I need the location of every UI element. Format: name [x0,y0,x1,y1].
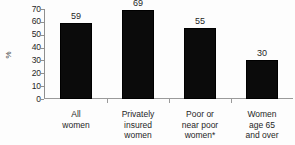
x-axis-category-label: Women age 65 and over [231,109,293,141]
y-axis-tick-label: 50 [17,30,41,39]
x-axis-category-label: All women [45,109,107,130]
bar [122,10,154,99]
bar-chart-figure: % 706050403020100 59All women69Privately… [0,0,295,145]
bar [60,23,92,99]
y-axis-tick-label: 0 [17,95,41,104]
y-axis-tick-labels: 706050403020100 [17,4,41,104]
y-axis-tick-mark [40,73,44,74]
y-axis-tick-mark [40,48,44,49]
bar-value-label: 59 [56,11,96,21]
y-axis-tick-label: 60 [17,17,41,26]
y-axis-tick-label: 70 [17,5,41,14]
y-axis-tick-label: 40 [17,43,41,52]
x-axis-tick-mark [107,99,108,103]
y-axis-tick-mark [40,22,44,23]
bar [184,28,216,99]
x-axis-category-label: Poor or near poor women* [169,109,231,141]
x-axis-category-label: Privately insured women [107,109,169,141]
bar [246,60,278,99]
y-axis-tick-mark [40,9,44,10]
y-axis-tick-mark [40,99,44,100]
y-axis-tick-mark [40,60,44,61]
y-axis-tick-mark [40,86,44,87]
y-axis-tick-label: 30 [17,56,41,65]
bar-value-label: 69 [118,0,158,8]
bar-value-label: 30 [242,48,282,58]
y-axis-tick-label: 20 [17,69,41,78]
y-axis-tick-mark [40,35,44,36]
x-axis-tick-mark [169,99,170,103]
bar-value-label: 55 [180,16,220,26]
x-axis-tick-mark [231,99,232,103]
y-axis-tick-label: 10 [17,82,41,91]
